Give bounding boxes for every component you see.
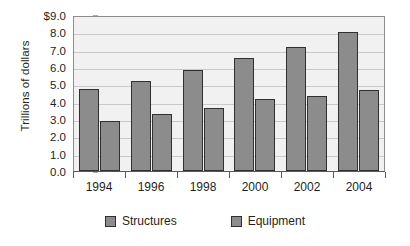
bar-structures-1996 [131, 81, 151, 171]
legend-label: Equipment [248, 214, 305, 228]
x-axis-tick-mark [177, 172, 178, 178]
legend-item-structures[interactable]: Structures [105, 214, 177, 228]
bar-equipment-1996 [152, 114, 172, 171]
bar-group [79, 17, 120, 171]
bar-equipment-1994 [100, 121, 120, 171]
x-axis-tick-label: 1998 [177, 180, 229, 194]
legend-item-equipment[interactable]: Equipment [231, 214, 305, 228]
y-axis-tick-label: 1.0 [26, 149, 66, 161]
y-axis-tick-label: 7.0 [26, 45, 66, 57]
x-axis-tick-label: 1996 [125, 180, 177, 194]
legend-label: Structures [122, 214, 177, 228]
legend-swatch-equipment [231, 216, 242, 227]
bar-groups [74, 17, 384, 171]
x-axis-tick-mark [385, 172, 386, 178]
x-axis-tick-marks [73, 172, 385, 178]
x-axis-tick-label: 2002 [281, 180, 333, 194]
bar-structures-1998 [183, 70, 203, 171]
y-axis-tick-label: 2.0 [26, 131, 66, 143]
y-axis-tick-label: 5.0 [26, 79, 66, 91]
plot-area [73, 16, 385, 172]
bar-structures-1994 [79, 89, 99, 171]
bar-equipment-2004 [359, 90, 379, 171]
bar-structures-2000 [234, 58, 254, 171]
legend-swatch-structures [105, 216, 116, 227]
bar-group [338, 17, 379, 171]
bar-group [286, 17, 327, 171]
x-axis-tick-label: 1994 [73, 180, 125, 194]
y-axis-tick-label: 4.0 [26, 97, 66, 109]
x-axis-tick-mark [281, 172, 282, 178]
y-axis-tick-labels: $9.08.07.06.05.04.03.02.01.00.0 [26, 16, 66, 172]
bar-group [234, 17, 275, 171]
bar-equipment-1998 [204, 108, 224, 171]
y-axis-tick-label: $9.0 [26, 10, 66, 22]
bar-equipment-2002 [307, 96, 327, 171]
chart-legend: StructuresEquipment [0, 214, 410, 228]
x-axis-tick-mark [333, 172, 334, 178]
y-axis-tick-label: 6.0 [26, 62, 66, 74]
x-axis-tick-label: 2000 [229, 180, 281, 194]
bar-chart-figure: Trillions of dollars $9.08.07.06.05.04.0… [0, 0, 410, 246]
x-axis-tick-label: 2004 [333, 180, 385, 194]
bar-equipment-2000 [255, 99, 275, 171]
x-axis-tick-labels: 199419961998200020022004 [73, 180, 385, 194]
bar-structures-2002 [286, 47, 306, 171]
y-axis-tick-label: 0.0 [26, 166, 66, 178]
bar-group [131, 17, 172, 171]
x-axis-tick-mark [73, 172, 74, 178]
x-axis-tick-mark [229, 172, 230, 178]
x-axis-tick-mark [125, 172, 126, 178]
bar-group [183, 17, 224, 171]
bar-structures-2004 [338, 32, 358, 171]
y-axis-tick-label: 3.0 [26, 114, 66, 126]
y-axis-tick-label: 8.0 [26, 27, 66, 39]
